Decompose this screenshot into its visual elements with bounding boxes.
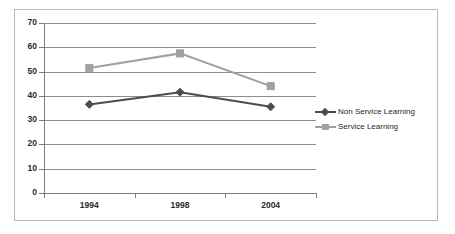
data-point-square-marker bbox=[267, 83, 274, 90]
legend-marker-1 bbox=[322, 124, 329, 130]
legend-item-label: Non Service Learning bbox=[338, 107, 415, 117]
chart-legend: Non Service Learning Service Learning bbox=[315, 106, 435, 136]
legend-marker-0 bbox=[321, 108, 329, 116]
series-non-service-learning bbox=[85, 88, 274, 111]
data-point-diamond-marker bbox=[176, 88, 184, 96]
data-point-diamond-marker bbox=[267, 103, 275, 111]
data-point-diamond-marker bbox=[85, 100, 93, 108]
legend-item-label: Service Learning bbox=[338, 122, 398, 132]
legend-item-service-learning[interactable]: Service Learning bbox=[315, 121, 435, 133]
diamond-icon bbox=[315, 107, 336, 117]
legend-item-non-service-learning[interactable]: Non Service Learning bbox=[315, 106, 435, 118]
chart-frame: 706050403020100 199419982004 Non Service… bbox=[14, 9, 438, 221]
data-point-square-marker bbox=[86, 64, 93, 71]
square-icon bbox=[315, 122, 336, 132]
series-line bbox=[89, 53, 270, 86]
series-service-learning bbox=[86, 50, 274, 90]
data-point-square-marker bbox=[177, 50, 184, 57]
